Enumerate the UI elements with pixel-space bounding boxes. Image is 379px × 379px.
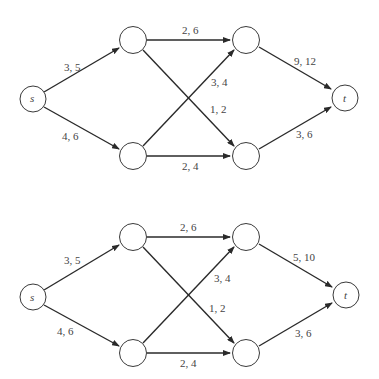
edge-label-c-t: 5, 10 xyxy=(293,251,316,263)
edge-label-b-d: 2, 4 xyxy=(182,160,199,172)
edge-s-a xyxy=(44,48,119,92)
edge-label-s-b: 4, 6 xyxy=(62,130,79,142)
node-c xyxy=(233,27,260,54)
edge-label-a-d: 1, 2 xyxy=(209,302,226,314)
edge-s-b xyxy=(44,107,119,149)
node-b xyxy=(120,340,147,367)
graph-bottom: 3, 5 4, 6 2, 6 1, 2 3, 4 2, 4 5, 10 3, 6… xyxy=(20,221,359,369)
node-t: t xyxy=(333,282,359,308)
node-a xyxy=(120,27,147,54)
node-a xyxy=(120,224,147,251)
edge-label-b-d: 2, 4 xyxy=(180,357,197,369)
edge-s-b xyxy=(44,305,119,346)
edge-label-s-a: 3, 5 xyxy=(64,254,81,266)
node-d xyxy=(233,143,260,170)
edge-s-a xyxy=(44,245,119,290)
node-s: s xyxy=(20,86,46,112)
edge-c-t xyxy=(259,47,331,89)
node-s: s xyxy=(20,284,46,310)
edge-label-s-a: 3, 5 xyxy=(64,61,81,73)
edge-d-t xyxy=(259,107,331,149)
edge-label-d-t: 3, 6 xyxy=(296,128,313,140)
edge-label-s-b: 4, 6 xyxy=(57,325,74,337)
edge-label-c-t: 9, 12 xyxy=(294,55,316,67)
node-t: t xyxy=(332,85,358,111)
flow-network-figure: 3, 5 4, 6 2, 6 1, 2 3, 4 2, 4 9, 12 3, 6… xyxy=(0,0,379,379)
edge-label-b-c: 3, 4 xyxy=(214,272,231,284)
edge-label-b-c: 3, 4 xyxy=(211,76,228,88)
edge-label-d-t: 3, 6 xyxy=(295,327,312,339)
edge-label-a-c: 2, 6 xyxy=(180,221,197,233)
edge-label-a-d: 1, 2 xyxy=(210,103,227,115)
node-b xyxy=(120,143,147,170)
node-label-s: s xyxy=(30,291,34,303)
node-label-s: s xyxy=(30,92,34,104)
node-c xyxy=(233,224,260,251)
graph-top: 3, 5 4, 6 2, 6 1, 2 3, 4 2, 4 9, 12 3, 6… xyxy=(20,24,358,172)
edge-d-t xyxy=(259,303,332,346)
edge-label-a-c: 2, 6 xyxy=(182,24,199,36)
node-d xyxy=(233,340,260,367)
